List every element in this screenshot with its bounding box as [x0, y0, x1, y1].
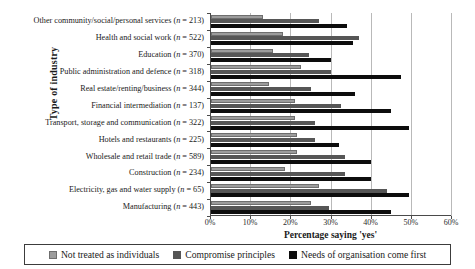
x-tick-label-0: 0% [205, 218, 216, 227]
bar [211, 193, 409, 197]
bar [211, 189, 387, 193]
bar [211, 177, 371, 181]
bar [211, 121, 315, 125]
x-tick-label-50: 50% [403, 218, 418, 227]
bar [211, 109, 391, 113]
category-label-10: Electricity, gas and water supply (n = 6… [14, 182, 208, 199]
bar [211, 49, 273, 53]
bar-group-3 [211, 64, 451, 81]
x-tick-label-30: 30% [323, 218, 338, 227]
bar [211, 75, 401, 79]
x-axis-title: Percentage saying 'yes' [210, 230, 451, 240]
x-tick-label-20: 20% [283, 218, 298, 227]
legend-swatch-icon [49, 251, 57, 259]
bar-group-2 [211, 47, 451, 64]
bar [211, 143, 339, 147]
legend-swatch-icon [173, 251, 181, 259]
bar-group-11 [211, 199, 451, 216]
bar [211, 116, 295, 120]
bar [211, 32, 283, 36]
bar-group-8 [211, 148, 451, 165]
bar-group-1 [211, 30, 451, 47]
category-label-9: Construction (n = 234) [14, 165, 208, 182]
x-tick-label-60: 60% [444, 218, 459, 227]
x-tick-labels: 0%10%20%30%40%50%60% [210, 218, 451, 230]
bar [211, 104, 341, 108]
legend-item-0[interactable]: Not treated as individuals [49, 249, 159, 260]
category-label-3: Public administration and defence (n = 3… [14, 64, 208, 81]
chart-figure: Type of industry Other community/social/… [0, 0, 475, 269]
legend-label: Needs of organisation come first [301, 249, 426, 260]
legend-item-1[interactable]: Compromise principles [173, 249, 275, 260]
bar [211, 70, 331, 74]
bar [211, 160, 371, 164]
category-label-text: Manufacturing (n = 443) [123, 203, 204, 212]
category-label-7: Hotels and restaurants (n = 225) [14, 131, 208, 148]
bar [211, 155, 345, 159]
category-label-5: Financial intermediation (n = 137) [14, 98, 208, 115]
y-tick-12 [207, 216, 210, 217]
bar [211, 82, 269, 86]
bar [211, 138, 315, 142]
category-label-6: Transport, storage and communication (n … [14, 115, 208, 132]
x-tick-label-10: 10% [243, 218, 258, 227]
category-label-text: Education (n = 370) [138, 51, 204, 60]
bar [211, 99, 295, 103]
category-label-text: Wholesale and retail trade (n = 589) [86, 153, 204, 162]
category-label-0: Other community/social/personal services… [14, 13, 208, 30]
category-label-2: Education (n = 370) [14, 47, 208, 64]
bar [211, 126, 409, 130]
bar [211, 172, 345, 176]
chart-legend: Not treated as individualsCompromise pri… [24, 244, 451, 265]
legend-item-2[interactable]: Needs of organisation come first [289, 249, 426, 260]
bar [211, 41, 353, 45]
category-label-text: Health and social work (n = 522) [96, 34, 204, 43]
bar [211, 201, 311, 205]
plot-area [210, 13, 451, 216]
legend-label: Not treated as individuals [61, 249, 159, 260]
bar [211, 206, 329, 210]
category-label-text: Real estate/renting/business (n = 344) [80, 85, 204, 94]
legend-label: Compromise principles [185, 249, 275, 260]
bar-group-4 [211, 81, 451, 98]
bar [211, 65, 301, 69]
legend-swatch-icon [289, 251, 297, 259]
gridline-60 [451, 13, 452, 216]
category-label-text: Financial intermediation (n = 137) [91, 102, 204, 111]
category-label-text: Transport, storage and communication (n … [45, 119, 204, 128]
bar [211, 58, 331, 62]
bar-group-5 [211, 98, 451, 115]
category-label-text: Hotels and restaurants (n = 225) [99, 136, 204, 145]
bar-group-7 [211, 131, 451, 148]
category-label-text: Construction (n = 234) [129, 169, 204, 178]
bar [211, 87, 311, 91]
bar [211, 53, 309, 57]
category-label-8: Wholesale and retail trade (n = 589) [14, 148, 208, 165]
bar-groups [211, 13, 451, 216]
category-label-text: Public administration and defence (n = 3… [60, 68, 204, 77]
bar [211, 36, 359, 40]
category-label-1: Health and social work (n = 522) [14, 30, 208, 47]
bar [211, 92, 355, 96]
bar [211, 15, 263, 19]
bar [211, 150, 297, 154]
category-label-text: Electricity, gas and water supply (n = 6… [69, 186, 204, 195]
bar [211, 210, 391, 214]
bar-group-10 [211, 182, 451, 199]
category-label-11: Manufacturing (n = 443) [14, 199, 208, 216]
category-labels: Other community/social/personal services… [14, 13, 208, 216]
bar [211, 184, 319, 188]
bar [211, 167, 285, 171]
x-tick-label-40: 40% [363, 218, 378, 227]
bar [211, 133, 297, 137]
bar-group-9 [211, 165, 451, 182]
category-label-4: Real estate/renting/business (n = 344) [14, 81, 208, 98]
category-label-text: Other community/social/personal services… [34, 17, 204, 26]
bar [211, 19, 319, 23]
bar [211, 24, 347, 28]
bar-group-6 [211, 115, 451, 132]
bar-group-0 [211, 13, 451, 30]
